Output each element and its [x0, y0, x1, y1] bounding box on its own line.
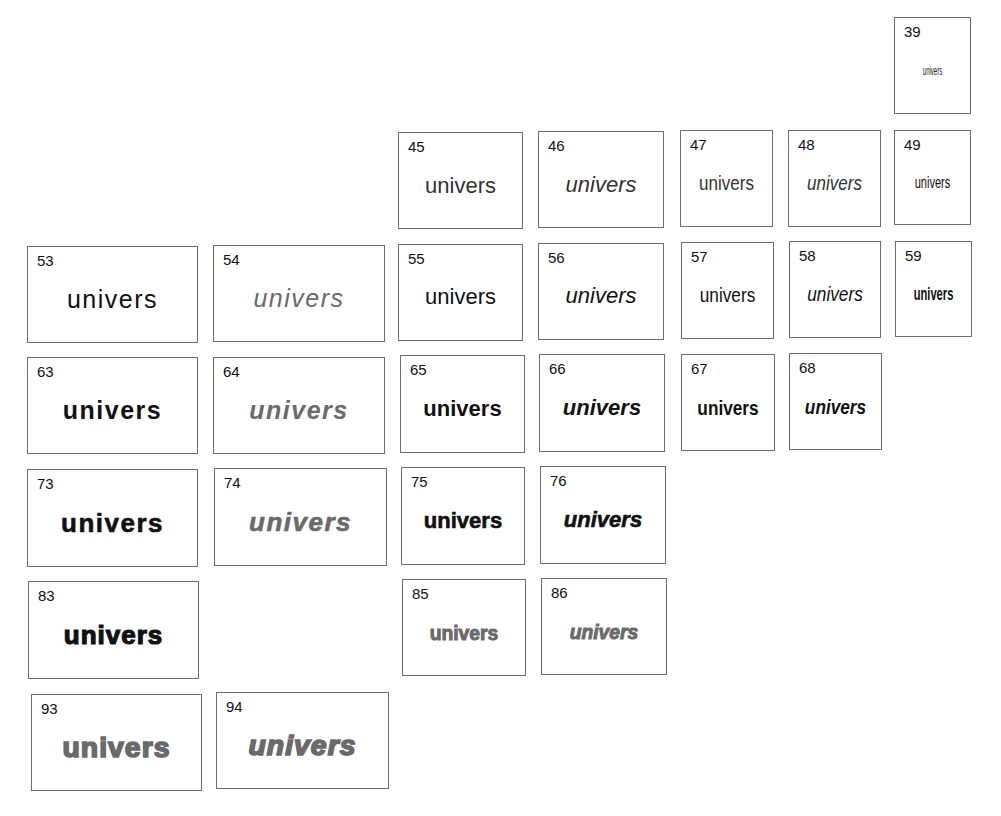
cell-sample: univers: [910, 285, 957, 303]
specimen-cell-45: 45 univers: [398, 132, 523, 229]
cell-number: 53: [37, 253, 54, 268]
cell-number: 75: [411, 474, 428, 489]
cell-number: 49: [904, 137, 921, 152]
cell-sample: univers: [539, 174, 663, 196]
cell-sample: univers: [28, 510, 197, 536]
cell-number: 66: [549, 361, 566, 376]
specimen-cell-85: 85 univers: [402, 579, 526, 676]
cell-sample: univers: [214, 398, 384, 423]
cell-sample: univers: [408, 622, 520, 643]
cell-sample: univers: [402, 510, 524, 532]
cell-number: 56: [548, 250, 565, 265]
specimen-cell-58: 58 univers: [789, 241, 881, 338]
cell-sample: univers: [401, 398, 524, 420]
cell-number: 63: [37, 364, 54, 379]
cell-number: 93: [41, 701, 58, 716]
cell-sample: univers: [688, 173, 765, 193]
specimen-cell-75: 75 univers: [401, 467, 525, 565]
cell-sample: univers: [213, 733, 393, 760]
cell-sample: univers: [399, 286, 522, 308]
specimen-cell-56: 56 univers: [538, 243, 664, 340]
specimen-cell-57: 57 univers: [681, 242, 774, 339]
cell-number: 67: [691, 361, 708, 376]
cell-number: 64: [223, 364, 240, 379]
cell-number: 55: [408, 251, 425, 266]
cell-number: 74: [224, 475, 241, 490]
cell-sample: univers: [798, 283, 872, 304]
cell-number: 59: [905, 248, 922, 263]
specimen-cell-83: 83 univers: [28, 581, 199, 679]
cell-sample: univers: [28, 287, 197, 312]
specimen-cell-53: 53 univers: [27, 246, 198, 343]
cell-number: 68: [799, 360, 816, 375]
specimen-cell-54: 54 univers: [213, 245, 385, 342]
cell-sample: univers: [541, 509, 665, 531]
specimen-cell-94: 94 univers: [216, 692, 389, 789]
specimen-cell-67: 67 univers: [681, 354, 775, 451]
specimen-cell-49: 49 univers: [894, 130, 971, 225]
cell-number: 58: [799, 248, 816, 263]
specimen-cell-64: 64 univers: [213, 357, 385, 454]
specimen-cell-86: 86 univers: [541, 578, 667, 675]
cell-sample: univers: [29, 622, 198, 648]
cell-sample: univers: [214, 286, 384, 311]
cell-sample: univers: [690, 284, 765, 305]
cell-sample: univers: [28, 735, 205, 762]
cell-number: 76: [550, 473, 567, 488]
cell-number: 57: [691, 249, 708, 264]
specimen-cell-46: 46 univers: [538, 131, 664, 228]
cell-sample: univers: [690, 397, 765, 418]
cell-sample: univers: [798, 396, 873, 417]
cell-number: 73: [37, 476, 54, 491]
cell-number: 94: [226, 699, 243, 714]
univers-specimen-page: { "specimen": { "sample_word": "univers"…: [0, 0, 1001, 816]
cell-number: 85: [412, 586, 429, 601]
cell-sample: univers: [399, 175, 522, 197]
cell-number: 45: [408, 139, 425, 154]
cell-number: 65: [410, 362, 427, 377]
specimen-cell-73: 73 univers: [27, 469, 198, 567]
specimen-cell-48: 48 univers: [788, 130, 881, 227]
specimen-cell-76: 76 univers: [540, 466, 666, 564]
specimen-cell-47: 47 univers: [680, 130, 773, 227]
cell-number: 47: [690, 137, 707, 152]
cell-number: 86: [551, 585, 568, 600]
cell-sample: univers: [215, 509, 386, 535]
cell-sample: univers: [796, 173, 873, 193]
cell-number: 54: [223, 252, 240, 267]
cell-number: 39: [904, 24, 921, 39]
cell-sample: univers: [539, 285, 663, 307]
specimen-cell-93: 93 univers: [31, 694, 202, 791]
specimen-cell-55: 55 univers: [398, 244, 523, 341]
specimen-cell-39: 39 univers: [894, 17, 971, 114]
specimen-cell-74: 74 univers: [214, 468, 387, 566]
specimen-cell-68: 68 univers: [789, 353, 882, 450]
specimen-cell-59: 59 univers: [895, 241, 972, 337]
specimen-cell-66: 66 univers: [539, 354, 665, 452]
cell-number: 46: [548, 138, 565, 153]
specimen-cell-65: 65 univers: [400, 355, 525, 453]
cell-number: 83: [38, 588, 55, 603]
cell-sample: univers: [914, 65, 952, 77]
cell-sample: univers: [540, 397, 664, 419]
cell-sample: univers: [547, 621, 661, 642]
cell-number: 48: [798, 137, 815, 152]
specimen-cell-63: 63 univers: [27, 357, 198, 454]
cell-sample: univers: [908, 174, 957, 191]
cell-sample: univers: [28, 398, 197, 423]
